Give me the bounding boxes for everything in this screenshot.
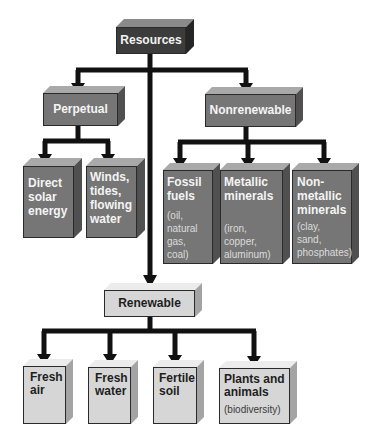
- node-winds-tides-flowing-water: Winds, tides, flowing water: [86, 166, 137, 238]
- node-label: Renewable: [104, 296, 195, 310]
- box-top-face: [205, 87, 303, 94]
- node-metallic-minerals: Metallic minerals (iron, copper, aluminu…: [220, 170, 283, 264]
- node-fossil-fuels: Fossil fuels (oil, natural gas, coal): [163, 170, 213, 264]
- box-side-face: [74, 158, 82, 238]
- node-label: Fresh water: [95, 372, 128, 398]
- node-label: Plants and animals: [224, 373, 285, 399]
- node-examples: (clay, sand, phosphates): [297, 220, 352, 259]
- box-top-face: [88, 360, 138, 367]
- node-resources: Resources: [116, 27, 186, 54]
- box-side-face: [131, 360, 138, 424]
- resource-classification-diagram: Resources Perpetual Nonrenewable Direct …: [0, 0, 372, 439]
- node-fresh-air: Fresh air: [23, 366, 66, 424]
- node-plants-and-animals: Plants and animals (biodiversity): [219, 368, 290, 424]
- node-examples: (biodiversity): [224, 403, 281, 416]
- box-side-face: [290, 361, 297, 424]
- node-examples: (oil, natural gas, coal): [167, 209, 198, 261]
- box-side-face: [213, 163, 220, 264]
- box-top-face: [220, 163, 290, 170]
- box-top-face: [23, 158, 82, 166]
- node-label: Nonrenewable: [205, 103, 296, 117]
- box-side-face: [66, 359, 73, 424]
- node-label: Fertile soil: [159, 372, 195, 398]
- node-direct-solar-energy: Direct solar energy: [23, 166, 74, 238]
- box-side-face: [352, 163, 359, 264]
- box-top-face: [23, 359, 73, 366]
- node-label: Resources: [116, 33, 186, 47]
- node-label: Non- metallic minerals: [297, 175, 346, 217]
- box-top-face: [104, 283, 202, 290]
- box-side-face: [197, 360, 204, 424]
- node-examples: (iron, copper, aluminum): [224, 222, 271, 261]
- node-nonrenewable: Nonrenewable: [205, 94, 296, 127]
- node-fertile-soil: Fertile soil: [153, 367, 197, 424]
- node-label: Fossil fuels: [167, 175, 202, 203]
- box-top-face: [163, 163, 220, 170]
- box-top-face: [86, 158, 145, 166]
- node-label: Winds, tides, flowing water: [90, 170, 132, 226]
- node-perpetual: Perpetual: [43, 93, 118, 126]
- node-label: Metallic minerals: [224, 175, 273, 203]
- node-label: Fresh air: [30, 371, 63, 397]
- node-label: Perpetual: [43, 102, 118, 116]
- box-top-face: [219, 361, 297, 368]
- box-side-face: [296, 87, 303, 127]
- node-label: Direct solar energy: [28, 176, 67, 218]
- box-top-face: [153, 360, 204, 367]
- box-side-face: [118, 86, 125, 126]
- box-side-face: [283, 163, 290, 264]
- node-nonmetallic-minerals: Non- metallic minerals (clay, sand, phos…: [292, 170, 352, 264]
- box-top-face: [292, 163, 359, 170]
- node-fresh-water: Fresh water: [88, 367, 131, 424]
- box-side-face: [137, 158, 145, 238]
- node-renewable: Renewable: [104, 290, 195, 317]
- box-top-face: [116, 19, 194, 27]
- box-top-face: [43, 86, 125, 93]
